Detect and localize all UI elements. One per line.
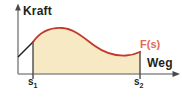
area-fill — [33, 28, 140, 74]
x-tick-label-s1-subscript: 1 — [34, 82, 38, 89]
y-axis-arrow-icon — [15, 4, 21, 11]
y-axis-label: Kraft — [23, 5, 52, 17]
curve-label-fs: F(s) — [140, 39, 160, 50]
x-axis-arrow-icon — [173, 71, 181, 77]
x-tick-label-s2-subscript: 2 — [140, 82, 144, 89]
tangent-segment — [18, 41, 34, 57]
x-tick-label-s1: s1 — [28, 77, 37, 89]
force-displacement-chart: Kraft Weg F(s) s1 s2 — [0, 0, 182, 99]
x-axis-label: Weg — [147, 57, 173, 69]
x-tick-label-s2: s2 — [134, 77, 143, 89]
